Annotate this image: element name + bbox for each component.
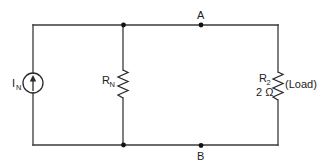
terminal-a-label: A [197, 9, 205, 21]
current-source-label: I [12, 77, 15, 89]
current-source: I N [12, 73, 43, 93]
current-arrow-up-icon [30, 75, 36, 82]
circuit-diagram: I N R N R 2 2 Ω (Load) A B [0, 0, 330, 166]
norton-resistor-zigzag-icon [118, 70, 128, 98]
load-resistor-zigzag-icon [273, 72, 283, 100]
junction-bottom-rn [121, 143, 126, 148]
norton-resistor-subscript: N [110, 80, 115, 89]
terminal-b: B [197, 143, 204, 162]
terminal-b-label: B [197, 150, 204, 162]
norton-resistor: R N [102, 70, 128, 98]
load-resistor: R 2 2 Ω (Load) [256, 72, 317, 100]
wires [33, 25, 278, 145]
junction-top-rn [121, 23, 126, 28]
current-source-subscript: N [16, 83, 21, 92]
load-resistor-note: (Load) [285, 78, 317, 90]
load-resistor-value: 2 Ω [256, 86, 273, 98]
terminal-b-dot [199, 143, 204, 148]
terminal-a-dot [199, 23, 204, 28]
